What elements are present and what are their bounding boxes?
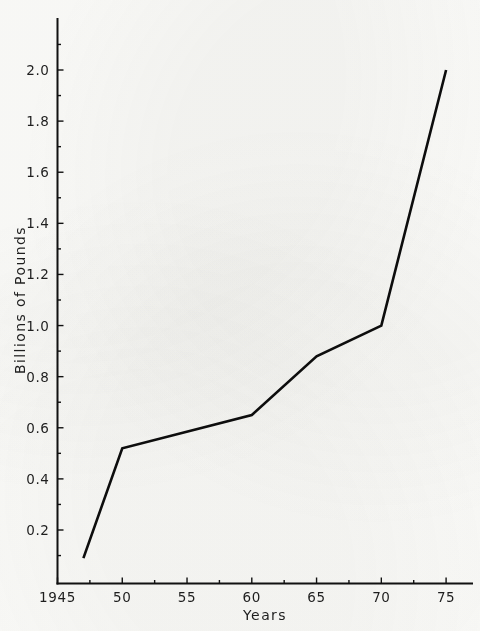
x-tick-label: 60 (243, 589, 261, 605)
y-tick-label: 0.2 (26, 522, 49, 538)
y-tick-label: 1.0 (26, 318, 49, 334)
line-chart: 0.20.40.60.81.01.21.41.61.82.0 194550556… (0, 0, 480, 631)
chart-page: 0.20.40.60.81.01.21.41.61.82.0 194550556… (0, 0, 480, 631)
x-axis-title: Years (242, 607, 287, 623)
y-tick-label: 0.6 (26, 420, 49, 436)
data-line-series-0 (83, 70, 446, 558)
x-tick-label: 75 (437, 589, 455, 605)
y-axis-title: Billions of Pounds (12, 226, 28, 374)
x-tick-label: 50 (113, 589, 131, 605)
x-tick-label: 70 (372, 589, 390, 605)
x-tick-label: 1945 (39, 589, 76, 605)
y-tick-label: 1.2 (26, 266, 49, 282)
x-tick-label: 55 (178, 589, 196, 605)
data-series-group (83, 70, 446, 558)
y-axis-tick-labels: 0.20.40.60.81.01.21.41.61.82.0 (26, 62, 49, 538)
y-tick-label: 0.4 (26, 471, 49, 487)
x-axis-tick-labels: 1945505560657075 (39, 589, 455, 605)
y-tick-label: 1.6 (26, 164, 49, 180)
y-tick-label: 1.8 (26, 113, 49, 129)
x-tick-label: 65 (307, 589, 325, 605)
y-tick-label: 2.0 (26, 62, 49, 78)
y-tick-label: 1.4 (26, 215, 49, 231)
y-tick-label: 0.8 (26, 369, 49, 385)
